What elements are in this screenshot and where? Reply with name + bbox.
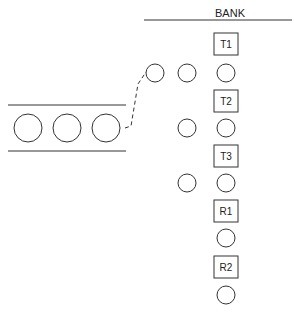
teller-label-t1: T1 (220, 39, 232, 50)
teller-label-t3: T3 (220, 151, 232, 162)
queue-customer (53, 114, 81, 142)
served-customer-t3 (217, 174, 235, 192)
waiting-customer (178, 119, 196, 137)
served-customer-t2 (217, 119, 235, 137)
bank-queue-diagram: BANK T1 T2 T3 R1 R2 (0, 0, 294, 314)
served-customer-t1 (217, 64, 235, 82)
waiting-customer (178, 64, 196, 82)
teller-label-r2: R2 (220, 262, 233, 273)
waiting-customer (146, 64, 164, 82)
teller-label-r1: R1 (220, 206, 233, 217)
queue-customer (14, 114, 42, 142)
queue-customer (92, 114, 120, 142)
served-customer-r1 (217, 229, 235, 247)
waiting-customer (178, 174, 196, 192)
bank-label: BANK (215, 7, 246, 19)
served-customer-r2 (217, 286, 235, 304)
queue-path-dashed (125, 72, 146, 128)
teller-label-t2: T2 (220, 96, 232, 107)
